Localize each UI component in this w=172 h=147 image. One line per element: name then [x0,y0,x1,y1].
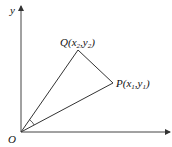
segment-qp [78,50,113,83]
angle-arc-poq [30,120,35,125]
y-axis-label: y [9,4,15,16]
point-p-label: P(x1,y1) [115,77,150,91]
segment-op [21,83,113,132]
coordinate-diagram: y O Q(x2,y2) P(x1,y1) [0,0,172,147]
origin-label: O [8,133,16,145]
point-q-label: Q(x2,y2) [60,36,95,50]
